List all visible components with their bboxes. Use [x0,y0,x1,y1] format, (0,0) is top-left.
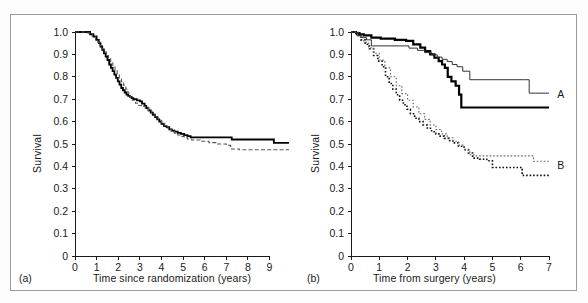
svg-text:0.9: 0.9 [53,48,68,60]
panel-a-letter: (a) [19,272,32,284]
panel-b-letter: (b) [307,272,320,284]
curve-label-b: B [557,159,564,171]
panel-a: 00.10.20.30.40.50.60.70.80.91.0012345678… [11,15,301,292]
svg-text:6: 6 [518,261,524,273]
svg-text:0: 0 [72,261,78,273]
svg-text:0.4: 0.4 [53,160,68,172]
svg-text:0.1: 0.1 [53,227,68,239]
svg-text:0.7: 0.7 [53,93,68,105]
svg-text:9: 9 [267,261,273,273]
svg-text:0.4: 0.4 [329,160,344,172]
panel-a-x-axis-title: Time since randomization (years) [93,272,251,284]
svg-text:0.2: 0.2 [329,205,344,217]
svg-text:0: 0 [338,250,344,262]
svg-text:0.8: 0.8 [53,70,68,82]
svg-text:0.3: 0.3 [329,182,344,194]
panel-b-x-axis-title: Time from surgery (years) [373,272,496,284]
panel-a-plot: 00.10.20.30.40.50.60.70.80.91.0012345678… [11,15,301,292]
svg-text:0: 0 [348,261,354,273]
svg-text:0.9: 0.9 [329,48,344,60]
svg-text:0.8: 0.8 [329,70,344,82]
svg-text:0.6: 0.6 [329,115,344,127]
svg-text:7: 7 [546,261,552,273]
svg-text:1.0: 1.0 [329,26,344,38]
svg-text:0.7: 0.7 [329,93,344,105]
panel-a-y-axis-title: Survival [31,134,43,173]
svg-text:0.1: 0.1 [329,227,344,239]
svg-text:0.3: 0.3 [53,182,68,194]
panel-b-plot: 00.10.20.30.40.50.60.70.80.91.001234567 [301,15,577,292]
svg-text:1.0: 1.0 [53,26,68,38]
svg-text:0.5: 0.5 [329,138,344,150]
figure-container: 00.10.20.30.40.50.60.70.80.91.0012345678… [0,0,588,303]
svg-text:0: 0 [62,250,68,262]
svg-text:0.5: 0.5 [53,138,68,150]
panel-b: 00.10.20.30.40.50.60.70.80.91.001234567 … [301,15,577,292]
curve-label-a: A [557,88,564,100]
svg-text:0.6: 0.6 [53,115,68,127]
panel-b-y-axis-title: Survival [309,134,321,173]
svg-text:0.2: 0.2 [53,205,68,217]
figure-frame: 00.10.20.30.40.50.60.70.80.91.0012345678… [10,14,577,291]
